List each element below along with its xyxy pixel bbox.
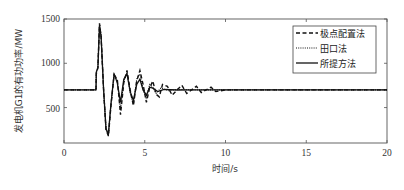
legend: 极点配置法 田口法 所提方法 <box>293 26 376 73</box>
x-tick-labels: 0 5 10 15 20 <box>62 148 392 158</box>
legend-label: 极点配置法 <box>320 28 365 39</box>
x-tick-label: 15 <box>302 148 312 158</box>
y-axis-title: 发电机G1的有功功率/MW <box>13 29 24 133</box>
legend-label: 田口法 <box>320 43 347 54</box>
x-tick-label: 0 <box>62 148 67 158</box>
y-tick-label: 1500 <box>41 14 60 24</box>
x-axis-title: 时间/s <box>212 163 238 174</box>
y-tick-label: 500 <box>46 104 61 114</box>
y-tick-label: 1000 <box>41 58 60 68</box>
x-tick-label: 5 <box>142 148 147 158</box>
x-tick-label: 10 <box>221 148 231 158</box>
legend-label: 所提方法 <box>320 58 356 69</box>
x-tick-label: 20 <box>382 148 392 158</box>
y-tick-labels: 500 1000 1500 <box>41 14 60 114</box>
chart-svg: 0 5 10 15 20 500 1000 1500 时间/s 发电机G1的有功… <box>0 0 404 190</box>
